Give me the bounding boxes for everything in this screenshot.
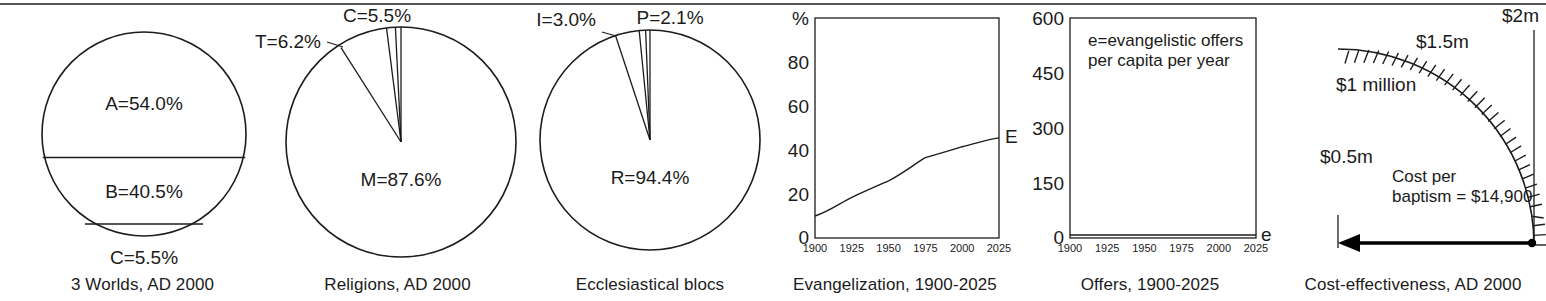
caption-religions: Religions, AD 2000 — [265, 275, 530, 295]
offers-chart: 600 450 300 150 0 1900 1925 1950 1975 20… — [1020, 0, 1280, 270]
offers-annotation-line2: per capita per year — [1088, 51, 1230, 70]
panel-cost-effectiveness: $0.5m $1 million $1.5m $2m Cost per bapt… — [1280, 0, 1546, 301]
offers-xtick-1950: 1950 — [1132, 242, 1156, 254]
gauge-annotation-line2: baptism = $14,900 — [1392, 187, 1532, 206]
evangelization-ytick-80: 80 — [788, 52, 809, 73]
evangelization-xtick-1975: 1975 — [913, 242, 937, 254]
religions-chart: M=87.6% T=6.2% C=5.5% — [265, 0, 530, 270]
offers-ytick-600: 600 — [1032, 8, 1064, 29]
evangelization-plot-frame — [815, 18, 999, 238]
caption-ecclesiastical-blocs: Ecclesiastical blocs — [530, 275, 770, 295]
panel-three-worlds: A=54.0% B=40.5% C=5.5% 3 Worlds, AD 2000 — [0, 0, 265, 301]
three-worlds-label-a: A=54.0% — [105, 93, 183, 114]
panel-religions: M=87.6% T=6.2% C=5.5% Religions, AD 2000 — [265, 0, 530, 301]
evangelization-xtick-1900: 1900 — [803, 242, 827, 254]
gauge-pivot-dot — [1528, 239, 1536, 247]
panel-ecclesiastical-blocs: R=94.4% I=3.0% P=2.1% Ecclesiastical blo… — [530, 0, 770, 301]
offers-ytick-300: 300 — [1032, 118, 1064, 139]
cost-effectiveness-gauge: $0.5m $1 million $1.5m $2m Cost per bapt… — [1280, 0, 1546, 270]
caption-cost-effectiveness: Cost-effectiveness, AD 2000 — [1280, 275, 1546, 295]
three-worlds-label-c: C=5.5% — [110, 247, 178, 268]
offers-ytick-450: 450 — [1032, 63, 1064, 84]
panel-evangelization: % 80 60 40 20 0 1900 1925 1950 1975 2000… — [770, 0, 1020, 301]
evangelization-series-line-E — [815, 138, 999, 216]
ecclesiastical-blocs-chart: R=94.4% I=3.0% P=2.1% — [530, 0, 770, 270]
evangelization-ytick-60: 60 — [788, 96, 809, 117]
offers-xtick-1975: 1975 — [1169, 242, 1193, 254]
offers-series-label-e: e — [1261, 224, 1272, 245]
blocs-label-p: P=2.1% — [636, 7, 703, 28]
three-worlds-label-b: B=40.5% — [105, 181, 183, 202]
caption-evangelization: Evangelization, 1900-2025 — [770, 275, 1020, 295]
gauge-needle-arrowhead — [1338, 234, 1360, 252]
offers-annotation-line1: e=evangelistic offers — [1088, 31, 1243, 50]
religions-label-t: T=6.2% — [255, 31, 321, 52]
gauge-annotation-line1: Cost per — [1392, 167, 1457, 186]
panel-offers: 600 450 300 150 0 1900 1925 1950 1975 20… — [1020, 0, 1280, 301]
offers-ytick-150: 150 — [1032, 173, 1064, 194]
three-worlds-chart: A=54.0% B=40.5% C=5.5% — [0, 0, 265, 270]
evangelization-series-label-E: E — [1005, 126, 1018, 147]
evangelization-xtick-1925: 1925 — [840, 242, 864, 254]
blocs-label-i: I=3.0% — [536, 9, 596, 30]
caption-three-worlds: 3 Worlds, AD 2000 — [0, 275, 275, 295]
figure-strip: A=54.0% B=40.5% C=5.5% 3 Worlds, AD 2000… — [0, 0, 1546, 301]
gauge-scale-label-2m: $2m — [1502, 5, 1539, 26]
offers-xtick-1900: 1900 — [1058, 242, 1082, 254]
religions-wedge-edge-3 — [341, 48, 401, 142]
religions-label-m: M=87.6% — [361, 169, 442, 190]
gauge-scale-label-1-million: $1 million — [1336, 74, 1416, 95]
blocs-leader-i — [602, 32, 616, 36]
evangelization-xtick-2000: 2000 — [950, 242, 974, 254]
evangelization-ylabel: % — [792, 8, 809, 29]
blocs-label-r: R=94.4% — [611, 167, 690, 188]
three-worlds-circle — [42, 32, 246, 236]
gauge-scale-label-1-5m: $1.5m — [1416, 31, 1469, 52]
offers-xtick-1925: 1925 — [1095, 242, 1119, 254]
evangelization-ytick-40: 40 — [788, 140, 809, 161]
caption-offers: Offers, 1900-2025 — [1020, 275, 1280, 295]
offers-xtick-2000: 2000 — [1207, 242, 1231, 254]
evangelization-xtick-2025: 2025 — [987, 242, 1011, 254]
evangelization-chart: % 80 60 40 20 0 1900 1925 1950 1975 2000… — [770, 0, 1020, 270]
evangelization-xtick-1950: 1950 — [876, 242, 900, 254]
evangelization-ytick-20: 20 — [788, 184, 809, 205]
religions-label-c: C=5.5% — [343, 5, 411, 26]
gauge-scale-label-0-5m: $0.5m — [1320, 146, 1373, 167]
